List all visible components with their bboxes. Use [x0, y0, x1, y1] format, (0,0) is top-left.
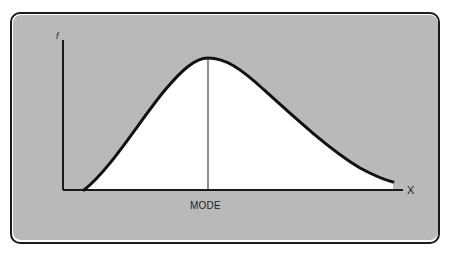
x-axis-label: X [407, 184, 414, 196]
y-axis-label: f [56, 31, 59, 41]
mode-label: MODE [190, 200, 221, 211]
area-under-curve [84, 58, 393, 190]
density-plot [0, 0, 450, 253]
